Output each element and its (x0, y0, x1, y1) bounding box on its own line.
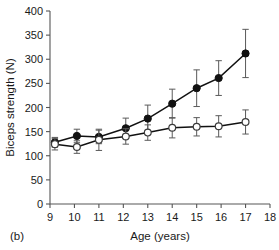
data-point-filled (193, 85, 200, 92)
x-tick-label: 11 (93, 211, 104, 223)
biceps-strength-line-chart: 0501001502002503003504009101112131415161… (0, 0, 279, 250)
data-point-filled (144, 115, 151, 122)
data-point-filled (242, 50, 249, 57)
data-point-open (144, 129, 151, 136)
y-tick-label: 50 (31, 174, 43, 186)
x-tick-label: 14 (166, 211, 178, 223)
data-point-open (51, 141, 58, 148)
y-tick-label: 150 (25, 126, 43, 138)
data-point-open (242, 119, 249, 126)
y-tick-label: 100 (25, 150, 43, 162)
y-tick-label: 250 (25, 77, 43, 89)
data-point-filled (215, 74, 222, 81)
x-tick-label: 12 (117, 211, 129, 223)
data-point-open (122, 133, 129, 140)
x-tick-label: 10 (68, 211, 80, 223)
data-point-open (193, 123, 200, 130)
y-tick-label: 400 (25, 5, 43, 17)
data-point-open (169, 124, 176, 131)
data-point-filled (169, 100, 176, 107)
y-axis-title: Biceps strength (N) (4, 58, 16, 157)
x-tick-label: 15 (191, 211, 203, 223)
y-tick-label: 200 (25, 102, 43, 114)
data-point-open (215, 123, 222, 130)
data-point-open (95, 136, 102, 143)
y-tick-label: 0 (37, 198, 43, 210)
x-tick-label: 16 (215, 211, 227, 223)
x-tick-label: 17 (239, 211, 251, 223)
data-point-filled (73, 132, 80, 139)
plot-content: 0501001502002503003504009101112131415161… (4, 5, 276, 242)
x-axis-title: Age (years) (130, 230, 190, 242)
panel-label: (b) (10, 230, 24, 242)
figure-panel-b: 0501001502002503003504009101112131415161… (0, 0, 279, 250)
x-tick-label: 18 (264, 211, 276, 223)
x-tick-label: 9 (47, 211, 53, 223)
y-tick-label: 350 (25, 29, 43, 41)
x-tick-label: 13 (142, 211, 154, 223)
axis-lines (50, 11, 270, 204)
y-tick-label: 300 (25, 53, 43, 65)
data-point-open (73, 144, 80, 151)
